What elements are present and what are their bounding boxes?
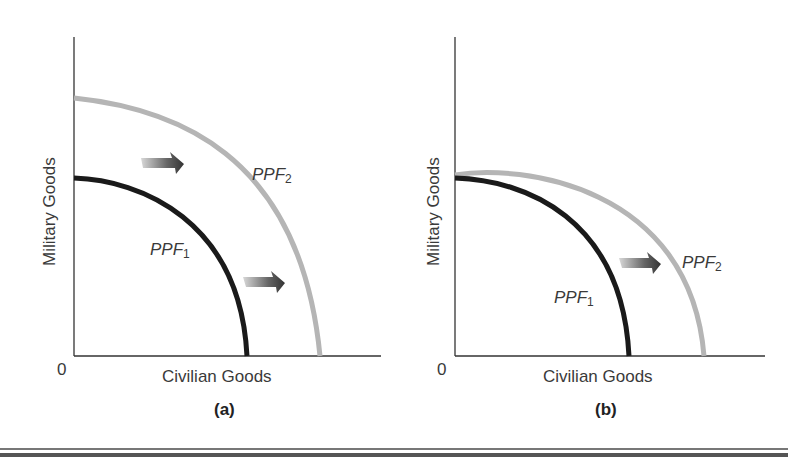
ppf1-label-sub: 1 [183,247,190,261]
ppf2-label-sub: 2 [285,172,292,186]
panel-b-tag: (b) [595,400,617,420]
ppf2-label: PPF2 [252,165,292,186]
panel-a-tag: (a) [214,400,235,420]
ppf1-curve [74,178,247,356]
panel-a-chart [74,37,381,356]
shift-arrow-icon [141,152,184,174]
panel-b-chart [455,37,765,356]
origin-label: 0 [57,360,66,380]
ppf2-label-base: PPF [682,253,715,272]
ppf-figure [0,0,788,461]
shift-arrow-icon [619,252,661,274]
ppf1-label-sub: 1 [587,295,594,309]
ppf1-curve [455,178,629,356]
y-axis-label: Military Goods [424,157,444,266]
x-axis-label: Civilian Goods [162,367,272,387]
ppf1-label-base: PPF [150,240,183,259]
origin-label: 0 [437,360,446,380]
ppf2-label-sub: 2 [715,260,722,274]
y-axis-label: Military Goods [40,157,60,266]
ppf1-label: PPF1 [554,288,594,309]
ppf1-label-base: PPF [554,288,587,307]
divider-thick [0,453,788,457]
ppf2-curve [455,173,704,356]
divider-thin [0,448,788,450]
ppf2-label-base: PPF [252,165,285,184]
shift-arrow-icon [243,271,285,293]
ppf1-label: PPF1 [150,240,190,261]
ppf2-label: PPF2 [682,253,722,274]
x-axis-label: Civilian Goods [543,367,653,387]
